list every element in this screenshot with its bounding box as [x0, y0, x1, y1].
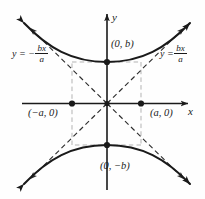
- asymptote-left-numerator: bx: [36, 44, 47, 54]
- asymptote-label-right: y = bx a: [160, 44, 186, 64]
- asymptote-right-lead: y =: [160, 49, 174, 59]
- point-label-left: (−a, 0): [28, 108, 58, 119]
- asymptote-right-fraction: bx a: [175, 44, 186, 64]
- point-left: [69, 100, 75, 106]
- point-label-top-vertex: (0, b): [111, 39, 134, 50]
- asymptote-left-lead: y = −: [12, 49, 35, 59]
- hyperbola-figure: y x (0, b) (a, 0) (−a, 0) (0, −b) y = − …: [0, 0, 205, 199]
- point-right: [138, 100, 144, 106]
- point-bottom-vertex: [104, 142, 110, 148]
- x-axis-label: x: [188, 106, 193, 117]
- asymptote-right-denominator: a: [174, 53, 187, 64]
- asymptote-right-numerator: bx: [175, 44, 186, 54]
- point-label-bottom-vertex: (0, −b): [100, 161, 130, 172]
- asymptote-label-left: y = − bx a: [12, 44, 47, 64]
- asymptote-left-fraction: bx a: [36, 44, 47, 64]
- point-top-vertex: [104, 59, 110, 65]
- point-label-right: (a, 0): [150, 108, 173, 119]
- point-origin: [104, 101, 109, 106]
- y-axis-label: y: [112, 12, 117, 23]
- asymptote-left-denominator: a: [35, 53, 48, 64]
